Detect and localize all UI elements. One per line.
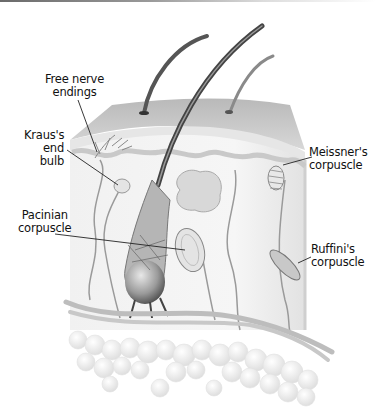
label-ruffini-corpuscle: Ruffini's corpuscle [311, 243, 364, 269]
sebaceous-gland [177, 170, 222, 212]
label-meissner-corpuscle: Meissner's corpuscle [309, 146, 367, 172]
meissner-corpuscle [268, 166, 284, 190]
kraus-end-bulb [114, 179, 130, 193]
label-kraus-end-bulb: Kraus's end bulb [24, 129, 64, 168]
label-pacinian-corpuscle: Pacinian corpuscle [18, 209, 71, 235]
label-free-nerve-endings: Free nerve endings [45, 73, 104, 99]
subcutaneous-fat [69, 331, 318, 406]
skin-cross-section-illustration [0, 0, 376, 411]
